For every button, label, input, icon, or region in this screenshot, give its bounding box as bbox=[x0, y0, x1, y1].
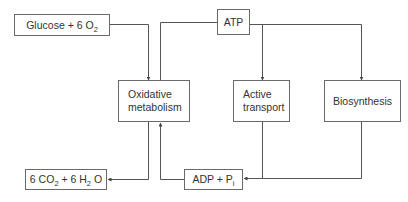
active-transport-node: Active transport bbox=[233, 80, 290, 122]
atp-node: ATP bbox=[217, 9, 250, 35]
glucose-label: Glucose + 6 O2 bbox=[26, 19, 98, 32]
adp-pi-node: ADP + Pi bbox=[184, 169, 243, 190]
active-transport-label: Active transport bbox=[243, 88, 284, 114]
biosynthesis-node: Biosynthesis bbox=[324, 80, 401, 122]
glucose-node: Glucose + 6 O2 bbox=[14, 14, 110, 36]
oxidative-label: Oxidative metabolism bbox=[128, 88, 182, 114]
edge-atp-to-oxidative bbox=[161, 23, 218, 82]
co2-h2o-label: 6 CO2 + 6 H2 O bbox=[30, 173, 102, 186]
edge-oxidative-to-co2 bbox=[108, 122, 149, 180]
edge-biosynthesis-to-adp bbox=[244, 122, 362, 179]
atp-label: ATP bbox=[224, 16, 244, 29]
edge-atp-right bbox=[250, 25, 362, 81]
oxidative-metabolism-node: Oxidative metabolism bbox=[118, 80, 190, 122]
co2-h2o-node: 6 CO2 + 6 H2 O bbox=[25, 169, 107, 190]
adp-pi-label: ADP + Pi bbox=[192, 173, 234, 186]
edge-adp-to-oxidative bbox=[161, 123, 185, 180]
edge-glucose-to-oxidative bbox=[110, 25, 149, 81]
biosynthesis-label: Biosynthesis bbox=[333, 95, 392, 108]
